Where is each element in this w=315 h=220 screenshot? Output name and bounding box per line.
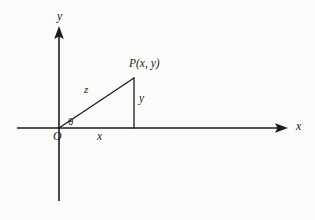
origin-label: O (53, 130, 62, 142)
coordinate-diagram (0, 0, 315, 220)
y-axis-label: y (57, 10, 62, 22)
opposite-leg-label: y (139, 93, 144, 105)
figure-canvas: y x O θ P(x, y) z y x (0, 0, 315, 220)
point-p-label: P(x, y) (129, 58, 160, 70)
adjacent-leg-label: x (97, 131, 102, 143)
angle-theta-label: θ (68, 116, 73, 127)
hypotenuse-label: z (84, 84, 88, 95)
x-axis-label: x (296, 120, 301, 132)
